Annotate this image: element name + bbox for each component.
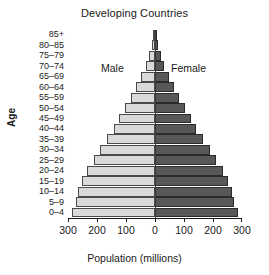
y-axis-tick-labels: 85+80–8575–7970–7465–6960–6455–5950–5445… [20,30,64,218]
y-axis-tick-label: 75–79 [39,51,64,60]
bar-male-40_44 [114,124,155,134]
bar-male-45_49 [119,114,155,124]
y-axis-tick-label: 80–85 [39,41,64,50]
bar-female-60_64 [155,82,174,92]
y-axis-tick-label: 50–54 [39,104,64,113]
bar-male-65_69 [141,72,155,82]
x-axis: 3002001000100200300 [68,218,242,242]
bar-male-5_9 [76,197,155,207]
bar-male-15_19 [82,176,155,186]
x-axis-tick [241,218,242,222]
legend-label-male: Male [101,62,124,74]
bar-female-20_24 [155,166,223,176]
x-axis-tick [155,218,156,222]
y-axis-tick-label: 15–19 [39,177,64,186]
bar-male-20_24 [87,166,155,176]
x-axis-tick [184,218,185,222]
bar-female-0_4 [155,208,238,218]
legend-label-female: Female [171,62,206,74]
plot-area: MaleFemale [68,30,242,218]
bar-male-50_54 [125,103,155,113]
y-axis-tick-label: 30–34 [39,145,64,154]
chart-title: Developing Countries [0,7,269,19]
x-axis-tick [97,218,98,222]
bar-female-30_34 [155,145,210,155]
bar-female-35_39 [155,134,203,144]
y-axis-tick-label: 5–9 [49,198,64,207]
x-axis-tick [68,218,69,222]
x-axis-tick [213,218,214,222]
bar-female-10_14 [155,187,232,197]
bar-female-15_19 [155,176,228,186]
y-axis-tick-label: 60–64 [39,83,64,92]
bar-male-35_39 [107,134,155,144]
bar-male-55_59 [131,93,155,103]
y-axis-tick-label: 25–29 [39,156,64,165]
bar-male-30_34 [100,145,155,155]
bar-male-10_14 [78,187,155,197]
bar-female-5_9 [155,197,234,207]
x-axis-label: Population (millions) [0,252,269,264]
bar-female-65_69 [155,72,169,82]
y-axis-tick-label: 85+ [49,30,64,39]
bar-male-60_64 [136,82,155,92]
bar-female-45_49 [155,114,191,124]
y-axis-tick-label: 55–59 [39,93,64,102]
x-axis-tick [126,218,127,222]
y-axis-tick-label: 35–39 [39,135,64,144]
y-axis-tick-label: 20–24 [39,166,64,175]
bar-male-70_74 [146,61,155,71]
population-pyramid-chart: Developing Countries Age 85+80–8575–7970… [0,0,269,275]
bar-female-25_29 [155,155,216,165]
y-axis-tick-label: 45–49 [39,114,64,123]
bar-male-25_29 [94,155,155,165]
y-axis-label: Age [6,98,17,138]
bar-female-50_54 [155,103,185,113]
y-axis-tick-label: 10–14 [39,187,64,196]
y-axis-tick-label: 40–44 [39,124,64,133]
y-axis-tick-label: 70–74 [39,62,64,71]
bar-female-40_44 [155,124,196,134]
bar-male-0_4 [72,208,155,218]
y-axis-tick-label: 65–69 [39,72,64,81]
x-axis-tick-label: 300 [225,224,259,236]
bar-female-70_74 [155,61,164,71]
center-axis-line [155,30,156,218]
bar-female-55_59 [155,93,179,103]
y-axis-tick-label: 0–4 [49,208,64,217]
